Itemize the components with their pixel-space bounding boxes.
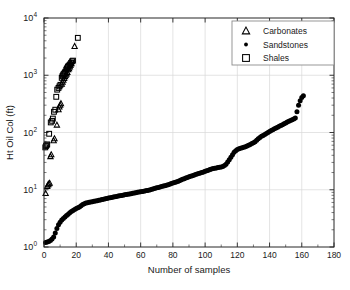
x-tick-label: 20 [71,250,81,260]
x-tick-label: 160 [295,250,309,260]
x-tick-label: 40 [104,250,114,260]
y-tick-label: 100 [23,240,37,252]
y-tick-label: 103 [23,68,37,80]
marker-dot [301,93,306,98]
x-tick-label: 140 [262,250,276,260]
x-axis-title: Number of samples [148,264,231,275]
y-tick-label: 101 [23,183,37,195]
x-tick-label: 0 [42,250,47,260]
scatter-plot-svg: 020406080100120140160180100101102103104N… [0,0,350,290]
marker-dot [296,103,301,108]
y-axis-title: Ht Oil Col (ft) [4,105,15,160]
y-tick-label: 104 [23,11,37,23]
x-tick-label: 180 [327,250,341,260]
legend-marker-dot [244,43,248,47]
marker-dot [294,109,299,114]
marker-dot [53,231,58,236]
legend-label-shales: Shales [263,53,289,63]
x-tick-label: 60 [136,250,146,260]
x-tick-label: 80 [168,250,178,260]
y-tick-label: 102 [23,126,37,138]
legend-label-sandstones: Sandstones [263,40,308,50]
marker-dot [293,115,298,120]
chart-figure: 020406080100120140160180100101102103104N… [0,0,350,290]
legend-label-carbonates: Carbonates [263,26,307,36]
x-tick-label: 100 [198,250,212,260]
x-tick-label: 120 [230,250,244,260]
